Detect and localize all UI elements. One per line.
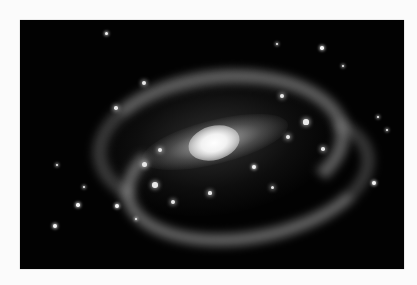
- image-caption: [40, 0, 380, 6]
- star: [377, 116, 379, 118]
- star: [56, 164, 59, 167]
- bright-knot: [114, 106, 118, 110]
- star: [320, 46, 324, 50]
- star: [83, 186, 85, 188]
- bright-knot: [303, 119, 308, 124]
- star: [342, 65, 345, 68]
- star: [276, 43, 278, 45]
- bright-knot: [321, 147, 325, 151]
- galaxy-photo: [20, 20, 404, 269]
- bright-knot: [158, 148, 162, 152]
- bright-knot: [142, 162, 147, 167]
- star: [252, 165, 256, 169]
- bright-knot: [208, 191, 211, 194]
- star: [372, 181, 377, 186]
- star: [76, 203, 79, 206]
- bright-knot: [152, 182, 158, 188]
- star: [53, 224, 58, 229]
- bright-knot: [286, 135, 290, 139]
- star: [115, 204, 119, 208]
- star: [386, 129, 388, 131]
- star: [105, 32, 108, 35]
- bright-knot: [280, 94, 284, 98]
- bright-knot: [271, 186, 274, 189]
